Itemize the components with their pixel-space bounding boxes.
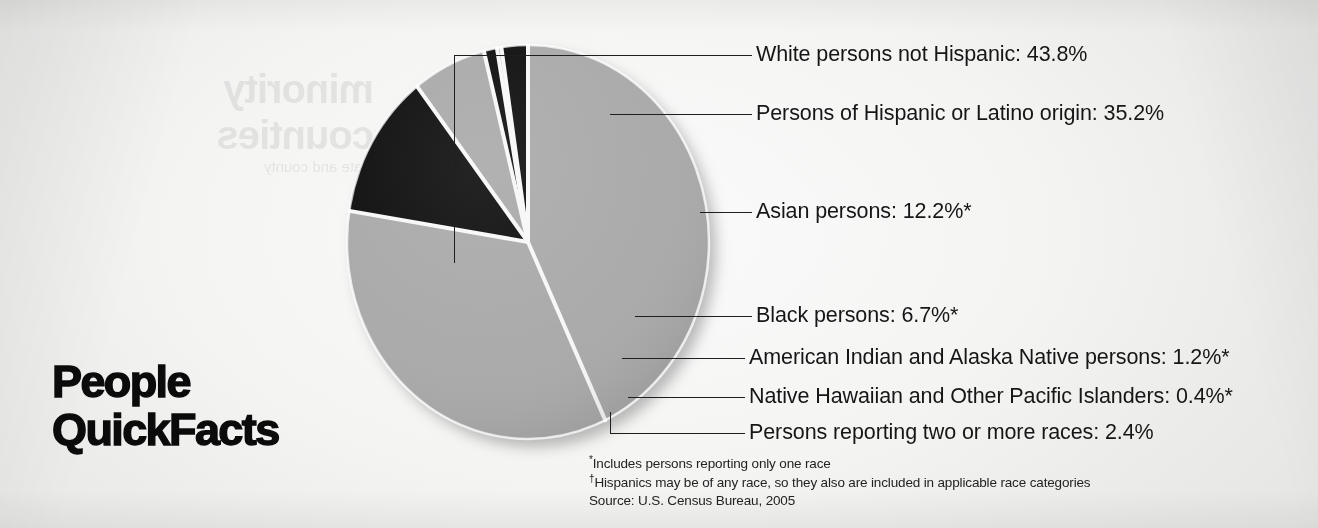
footnote-text-1: Includes persons reporting only one race (593, 456, 831, 471)
footnote-one-race: *Includes persons reporting only one rac… (589, 455, 1090, 474)
footnote-hispanic-any-race: †Hispanics may be of any race, so they a… (589, 474, 1090, 493)
callout-american-indian-alaska-native: American Indian and Alaska Native person… (749, 345, 1229, 369)
callout-two-or-more-races: Persons reporting two or more races: 2.4… (749, 420, 1154, 444)
callout-hispanic-or-latino: Persons of Hispanic or Latino origin: 35… (756, 101, 1164, 125)
callout-hispanic-text: Persons of Hispanic or Latino origin: 35… (756, 101, 1164, 125)
page-title-line-2: QuickFacts (52, 406, 279, 454)
footnote-source: Source: U.S. Census Bureau, 2005 (589, 492, 1090, 511)
page-title-line-1: People (52, 358, 279, 406)
leader-asian (700, 212, 752, 213)
leader-black (635, 316, 752, 317)
quickfacts-page: minority counties state and county #pie-… (0, 0, 1318, 528)
footnotes: *Includes persons reporting only one rac… (589, 455, 1090, 511)
leader-american-indian (622, 358, 745, 359)
leader-native-hawaiian (628, 397, 745, 398)
leader-white-vertical (454, 55, 455, 263)
pie-sheen (347, 45, 709, 439)
callout-native-hawaiian-pacific-islander: Native Hawaiian and Other Pacific Island… (749, 384, 1233, 408)
callout-asian-persons: Asian persons: 12.2%* (756, 199, 971, 223)
callout-black-persons: Black persons: 6.7%* (756, 303, 958, 327)
leader-two-or-more (610, 433, 745, 434)
leader-hispanic (610, 114, 752, 115)
footnote-text-2: Hispanics may be of any race, so they al… (594, 475, 1090, 490)
page-title: People QuickFacts (52, 358, 279, 454)
leader-two-or-more-stub (610, 412, 611, 434)
leader-white-horizontal (454, 55, 752, 56)
callout-white-persons-not-hispanic: White persons not Hispanic: 43.8% (756, 42, 1087, 66)
